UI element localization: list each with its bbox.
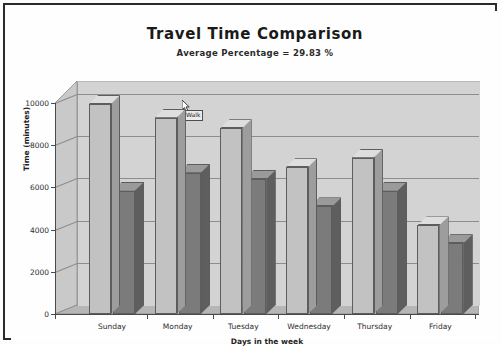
window-frame: Travel Time Comparison Average Percentag… (3, 3, 497, 340)
x-axis-line (55, 314, 479, 315)
y-axis-tick (51, 187, 56, 188)
x-axis-tick (213, 314, 214, 319)
y-axis-tick (51, 145, 56, 146)
x-axis-label-thursday: Thursday (357, 322, 392, 331)
x-axis-label-wednesday: Wednesday (287, 322, 330, 331)
chart-subtitle: Average Percentage = 29.83 % (11, 48, 499, 58)
x-axis-title: Days in the week (55, 337, 479, 346)
gridline (77, 136, 479, 137)
y-axis-tick-label: 8000 (30, 141, 49, 150)
y-axis-tick-label: 0 (44, 310, 49, 319)
bar-front-face (286, 167, 308, 314)
chart-title: Travel Time Comparison (11, 25, 499, 43)
bar-wednesday-series-1[interactable] (286, 158, 317, 314)
y-axis-tick-label: 4000 (30, 225, 49, 234)
y-axis-line (55, 103, 56, 314)
bar-front-face (89, 104, 111, 314)
x-axis-label-sunday: Sunday (98, 322, 126, 331)
y-axis-tick (51, 103, 56, 104)
bar-side-face (439, 216, 448, 314)
x-axis-label-monday: Monday (163, 322, 193, 331)
x-axis-tick (475, 314, 476, 319)
bar-friday-series-1[interactable] (417, 216, 448, 314)
x-axis-tick (410, 314, 411, 319)
y-axis-title: Time (minutes) (22, 107, 31, 171)
bar-thursday-series-1[interactable] (352, 149, 383, 314)
gridline (77, 94, 479, 95)
bar-side-face (374, 149, 383, 314)
bar-side-face (266, 170, 275, 314)
bar-tuesday-series-1[interactable] (220, 119, 251, 314)
x-axis-tick (344, 314, 345, 319)
gridline (77, 178, 479, 179)
x-axis-tick-origin (55, 314, 56, 319)
bar-side-face (177, 109, 186, 314)
chart-canvas: Travel Time Comparison Average Percentag… (11, 11, 499, 342)
bar-front-face (155, 118, 177, 314)
x-axis-tick (147, 314, 148, 319)
bar-front-face (352, 158, 374, 314)
bar-tooltip: Walk (183, 110, 203, 121)
y-axis-tick (51, 272, 56, 273)
y-axis-tick-label: 6000 (30, 183, 49, 192)
bar-side-face (332, 197, 341, 314)
x-axis-label-friday: Friday (429, 322, 452, 331)
bar-front-face (417, 225, 439, 314)
bar-sunday-series-1[interactable] (89, 95, 120, 314)
bar-side-face (201, 164, 210, 314)
bar-side-face (135, 182, 144, 314)
bar-side-face (308, 158, 317, 314)
x-axis-label-tuesday: Tuesday (228, 322, 259, 331)
x-axis-tick (278, 314, 279, 319)
bar-side-face (463, 234, 472, 314)
plot-area: 0200040006000800010000 SundayMondayTuesd… (55, 81, 479, 326)
bar-monday-series-1[interactable] (155, 109, 186, 314)
y-axis-tick (51, 230, 56, 231)
y-axis-tick-label: 2000 (30, 267, 49, 276)
bar-front-face (220, 128, 242, 314)
bar-side-face (398, 182, 407, 314)
bar-side-face (111, 95, 120, 314)
bar-side-face (242, 119, 251, 314)
